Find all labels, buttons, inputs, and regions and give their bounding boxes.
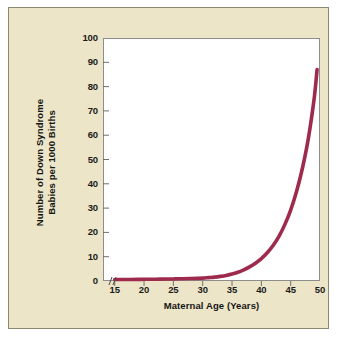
data-line bbox=[115, 70, 317, 280]
y-axis-title-line2: Babies per 1000 Births bbox=[45, 68, 57, 258]
axis-break-slash-1 bbox=[109, 277, 112, 285]
data-series-group bbox=[115, 70, 317, 280]
chart-panel: 0102030405060708090100 1520253035404550 … bbox=[8, 7, 329, 329]
chart-svg bbox=[9, 8, 341, 344]
y-axis-title-line1: Number of Down Syndrome bbox=[34, 68, 46, 258]
figure: 0102030405060708090100 1520253035404550 … bbox=[0, 0, 341, 344]
y-axis-title: Number of Down Syndrome Babies per 1000 … bbox=[34, 68, 57, 258]
x-axis-title: Maternal Age (Years) bbox=[103, 300, 320, 311]
axis-tick-marks bbox=[103, 62, 291, 286]
